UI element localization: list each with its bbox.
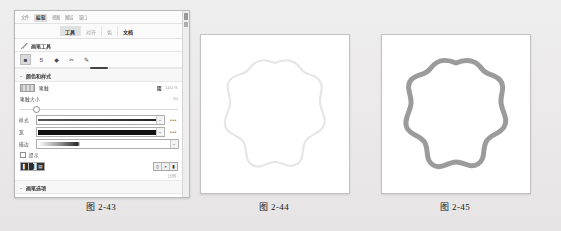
thick-line-preview bbox=[38, 130, 156, 135]
chevron-down-icon[interactable]: ⌄ bbox=[19, 72, 23, 78]
tab-color[interactable]: 色 bbox=[102, 26, 118, 36]
tab-tools[interactable]: 工具 bbox=[60, 26, 81, 36]
stroke-size-row: 笔触大小 20 bbox=[15, 93, 183, 104]
chevron-down-icon[interactable]: ⌄ bbox=[156, 116, 163, 124]
width-more-button[interactable]: ••• bbox=[168, 129, 179, 135]
align-right-button[interactable]: ▤ bbox=[37, 163, 44, 170]
chevron-down-icon[interactable]: ⌄ bbox=[156, 128, 163, 136]
pen-tool-glyph: ✎ bbox=[84, 57, 89, 63]
active-tool-row: 画笔工具 bbox=[15, 39, 183, 52]
thin-line-preview bbox=[38, 119, 156, 121]
figure-caption-2: 图 2-44 bbox=[200, 200, 348, 213]
style-label: 样式 bbox=[19, 117, 33, 123]
chevron-down-icon[interactable]: ⌄ bbox=[170, 140, 177, 148]
width-label: 宽 bbox=[19, 129, 33, 135]
smooth-row: 平滑 50 bbox=[15, 194, 183, 198]
scrollbar-thumb[interactable] bbox=[184, 13, 188, 20]
align-left-button[interactable]: ▌ bbox=[21, 163, 29, 170]
number-tool-glyph: 5 bbox=[40, 57, 43, 63]
align-center-button[interactable]: ▐ bbox=[29, 163, 37, 170]
opacity-value[interactable]: 100 % bbox=[166, 85, 178, 90]
outline-dropdown[interactable]: ⌄ bbox=[36, 139, 179, 149]
stroke-size-slider[interactable] bbox=[15, 104, 183, 114]
taper-line-preview bbox=[38, 142, 170, 146]
stroke-color-swatch[interactable] bbox=[20, 84, 35, 92]
figure-caption-3: 图 2-45 bbox=[381, 200, 529, 213]
stroke-row: 笔触 阻 100 % bbox=[15, 82, 183, 93]
section-color-and-style[interactable]: ⌄ 颜色和样式 bbox=[15, 68, 183, 82]
scissors-tool-glyph: ✂ bbox=[69, 57, 74, 63]
menu-item-layer[interactable]: 图层 bbox=[65, 15, 73, 21]
stroke-size-value[interactable]: 20 bbox=[173, 96, 178, 101]
cap-square-button[interactable]: ▮ bbox=[170, 163, 177, 170]
canvas-right[interactable] bbox=[381, 34, 531, 194]
figure-row: 文件 编辑 视图 图层 窗口 工具 对齐 色 文档 画笔工具 bbox=[0, 0, 561, 231]
section-brush-options[interactable]: ⌄ 画笔选项 bbox=[15, 180, 183, 194]
tab-align[interactable]: 对齐 bbox=[81, 26, 102, 36]
quality-label: 比例 : bbox=[168, 173, 178, 179]
align-button-group: ▌ ▐ ▤ bbox=[20, 162, 45, 171]
active-tool-label: 画笔工具 bbox=[31, 42, 51, 49]
fill-tool-glyph: ◆ bbox=[54, 57, 59, 63]
figure-caption-1: 图 2-43 bbox=[14, 200, 188, 213]
button-row: ▌ ▐ ▤ ▯ ◗ ▮ bbox=[15, 160, 183, 172]
tool-icon-bar: ■ 5 ◆ ✂ ✎ bbox=[15, 52, 183, 68]
menu-item-window[interactable]: 窗口 bbox=[79, 15, 87, 21]
style-more-button[interactable]: ••• bbox=[168, 117, 179, 123]
brush-icon bbox=[20, 36, 28, 54]
slider-knob[interactable] bbox=[33, 106, 40, 113]
scrollbar-thumb-secondary[interactable] bbox=[184, 22, 188, 27]
style-row: 样式 ⌄ ••• bbox=[15, 114, 183, 126]
hint-label: 提示 bbox=[29, 152, 39, 158]
quality-row: 比例 : bbox=[15, 172, 183, 180]
stroke-size-label: 笔触大小 bbox=[20, 96, 40, 102]
hint-row: 提示 bbox=[15, 150, 183, 160]
tool-panel-content: 文件 编辑 视图 图层 窗口 工具 对齐 色 文档 画笔工具 bbox=[15, 11, 183, 197]
panel-tabs: 工具 对齐 色 文档 bbox=[15, 24, 183, 39]
menu-item-edit[interactable]: 编辑 bbox=[34, 14, 46, 22]
pen-tool-icon[interactable]: ✎ bbox=[82, 55, 91, 64]
opacity-label: 阻 bbox=[157, 85, 162, 91]
square-tool-icon[interactable]: ■ bbox=[20, 54, 31, 65]
slider-track[interactable] bbox=[20, 109, 178, 110]
style-dropdown[interactable]: ⌄ bbox=[36, 115, 165, 125]
gray-wavy-blob-outline bbox=[382, 35, 530, 193]
panel-scrollbar[interactable] bbox=[182, 11, 189, 197]
light-wavy-blob-outline bbox=[201, 35, 349, 193]
menu-item-file[interactable]: 文件 bbox=[21, 15, 29, 21]
width-dropdown[interactable]: ⌄ bbox=[36, 127, 165, 137]
hint-checkbox[interactable] bbox=[20, 152, 26, 158]
canvas-mid[interactable] bbox=[200, 34, 350, 194]
fill-tool-icon[interactable]: ◆ bbox=[52, 55, 61, 64]
tab-document[interactable]: 文档 bbox=[118, 26, 138, 36]
smooth-value[interactable]: 50 bbox=[173, 197, 178, 198]
number-tool-icon[interactable]: 5 bbox=[37, 55, 46, 64]
outline-label: 描边 bbox=[19, 141, 33, 147]
chevron-down-icon[interactable]: ⌄ bbox=[19, 184, 23, 190]
panel-grabber[interactable] bbox=[90, 67, 108, 69]
cap-butt-button[interactable]: ▯ bbox=[154, 163, 162, 170]
scissors-tool-icon[interactable]: ✂ bbox=[67, 55, 76, 64]
cap-round-button[interactable]: ◗ bbox=[162, 163, 170, 170]
width-row: 宽 ⌄ ••• bbox=[15, 126, 183, 138]
panel-menubar: 文件 编辑 视图 图层 窗口 bbox=[15, 11, 183, 24]
cap-button-group: ▯ ◗ ▮ bbox=[153, 162, 178, 171]
menu-item-view[interactable]: 视图 bbox=[52, 15, 60, 21]
smooth-label: 平滑 bbox=[20, 197, 30, 199]
square-tool-glyph: ■ bbox=[24, 57, 28, 63]
section-color-title: 颜色和样式 bbox=[26, 72, 51, 79]
stroke-label: 笔触 bbox=[39, 85, 49, 91]
tool-panel: 文件 编辑 视图 图层 窗口 工具 对齐 色 文档 画笔工具 bbox=[14, 10, 190, 198]
section-brush-title: 画笔选项 bbox=[26, 184, 46, 191]
outline-row: 描边 ⌄ bbox=[15, 138, 183, 150]
